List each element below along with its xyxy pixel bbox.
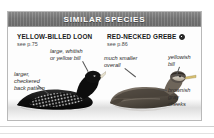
panel-header-bar: SIMILAR SPECIES — [8, 12, 201, 27]
species-title-yellow-billed-loon: YELLOW-BILLED LOON — [17, 33, 92, 40]
page-divider-rule-top — [0, 126, 214, 127]
annotation-loon-bill: large, whitish or yellow bill — [50, 48, 83, 62]
similar-species-panel: SIMILAR SPECIES YELLOW-BILLED LOON see p… — [7, 11, 202, 121]
species-title-red-necked-grebe: RED-NECKED GREBE — [107, 33, 185, 40]
annotation-loon-back-pattern: larger, checkered back pattern — [14, 71, 45, 92]
panel-title: SIMILAR SPECIES — [8, 12, 201, 27]
species-page-ref-yellow-billed-loon: see p.75 — [17, 41, 38, 47]
similar-species-figure: SIMILAR SPECIES YELLOW-BILLED LOON see p… — [0, 0, 214, 138]
species-page-ref-red-necked-grebe: see p.86 — [107, 41, 128, 47]
grebe-bill — [186, 75, 197, 79]
species-title-red-necked-grebe-label: RED-NECKED GREBE — [107, 33, 177, 40]
range-map-badge-icon — [179, 34, 185, 40]
annotation-grebe-size: much smaller overall — [104, 55, 137, 69]
grebe-eye — [179, 76, 181, 78]
page-divider-rule-bottom — [0, 133, 214, 134]
annotation-grebe-cheeks: brownish gray cheeks — [168, 87, 190, 108]
loon-pupil — [94, 75, 95, 76]
loon-head — [85, 71, 101, 83]
panel-content: YELLOW-BILLED LOON see p.75 — [8, 27, 201, 121]
